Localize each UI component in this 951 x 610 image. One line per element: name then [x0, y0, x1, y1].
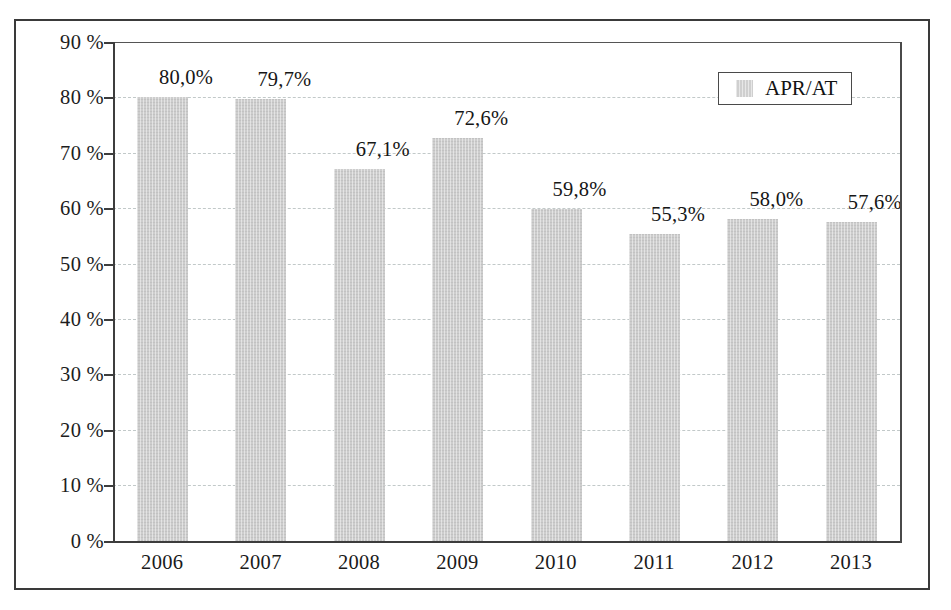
x-axis-tick-label: 2006 [113, 552, 211, 573]
plot-right-edge [900, 42, 902, 543]
bar-2007[interactable]: 79,7% [235, 99, 286, 541]
y-axis-tick-mark [104, 264, 113, 266]
y-axis-tick-mark [104, 541, 113, 543]
y-axis-tick-label: 50 % [60, 254, 104, 275]
y-axis-tick-labels: 90 % 80 % 70 % 60 % 50 % 40 % 30 % 20 % … [0, 42, 104, 541]
x-axis-tick-label: 2010 [507, 552, 605, 573]
y-axis-tick-mark [104, 208, 113, 210]
y-axis-tick-mark [104, 430, 113, 432]
y-axis-tick-mark [104, 42, 113, 44]
y-axis-tick-label: 0 % [71, 531, 104, 552]
y-axis-tick-label: 40 % [60, 309, 104, 330]
y-axis-tick-mark [104, 153, 113, 155]
y-axis-tick-label: 10 % [60, 475, 104, 496]
bar-slot: 58,0% [703, 42, 801, 541]
plot-area: 80,0% 79,7% 67,1% 72,6% 59,8% 55,3% [113, 42, 900, 541]
bar-2008[interactable]: 67,1% [334, 169, 385, 541]
y-axis-tick-label: 20 % [60, 420, 104, 441]
bar-2009[interactable]: 72,6% [432, 138, 483, 541]
bar-slot: 57,6% [802, 42, 900, 541]
y-axis-tick-label: 30 % [60, 364, 104, 385]
bar-slot: 67,1% [310, 42, 408, 541]
x-axis-tick-label: 2013 [802, 552, 900, 573]
x-axis-tick-label: 2012 [703, 552, 801, 573]
y-axis-tick-mark [104, 374, 113, 376]
bar-slot: 72,6% [408, 42, 506, 541]
bar-slot: 79,7% [211, 42, 309, 541]
bar-2006[interactable]: 80,0% [137, 97, 188, 541]
y-axis-tick-label: 60 % [60, 198, 104, 219]
y-axis-tick-mark [104, 97, 113, 99]
y-axis-tick-label: 80 % [60, 87, 104, 108]
y-axis-tick-label: 90 % [60, 32, 104, 53]
x-axis-line [113, 541, 902, 543]
x-axis-tick-label: 2009 [408, 552, 506, 573]
chart-legend[interactable]: APR/AT [718, 72, 852, 105]
bar-slot: 59,8% [507, 42, 605, 541]
bar-value-label: 57,6% [815, 192, 935, 213]
y-axis-tick-mark [104, 485, 113, 487]
bar-slot: 55,3% [605, 42, 703, 541]
x-axis-tick-label: 2007 [211, 552, 309, 573]
x-axis-tick-label: 2011 [605, 552, 703, 573]
x-axis-tick-labels: 2006 2007 2008 2009 2010 2011 2012 2013 [113, 552, 900, 586]
bar-2013[interactable]: 57,6% [826, 222, 877, 541]
bar-2010[interactable]: 59,8% [531, 209, 582, 541]
chart-figure: 90 % 80 % 70 % 60 % 50 % 40 % 30 % 20 % … [0, 0, 951, 610]
y-axis-tick-label: 70 % [60, 143, 104, 164]
bar-2012[interactable]: 58,0% [727, 219, 778, 541]
x-axis-tick-label: 2008 [310, 552, 408, 573]
legend-entry-label: APR/AT [765, 78, 837, 99]
legend-swatch-icon [736, 80, 753, 97]
y-axis-line [113, 42, 115, 543]
y-axis-tick-mark [104, 319, 113, 321]
bar-slot: 80,0% [113, 42, 211, 541]
bar-2011[interactable]: 55,3% [629, 234, 680, 541]
